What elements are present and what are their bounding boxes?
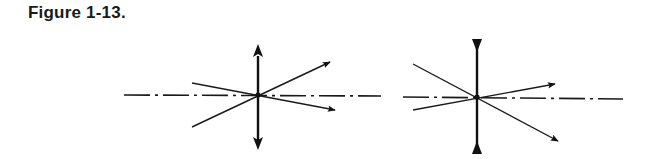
ray-ascending-left: [192, 62, 330, 127]
optical-axis-left: [124, 95, 381, 96]
lens-inward-arrow-top-icon: [472, 39, 482, 52]
diverging-lens-panel: [403, 39, 623, 154]
lens-inward-arrow-bottom-icon: [472, 141, 482, 154]
optical-axis-right: [403, 97, 623, 99]
ray-descending-right: [413, 64, 558, 141]
optical-center-left: [255, 92, 260, 97]
lens-arrow-up-icon: [253, 44, 263, 57]
converging-lens-panel: [124, 44, 381, 150]
optical-center-right: [474, 94, 479, 99]
